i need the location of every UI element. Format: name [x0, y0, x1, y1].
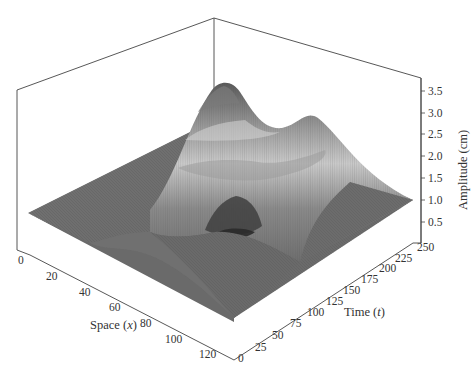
- x-tick-label: 100: [165, 333, 183, 345]
- z-tick-label: 2.0: [428, 150, 443, 162]
- t-tick-label: 125: [326, 295, 344, 307]
- z-tick-label: 3.0: [428, 107, 443, 119]
- x-tick-label: 40: [79, 286, 91, 298]
- t-tick-label: 25: [255, 341, 267, 353]
- t-axis-label: Time (t): [344, 305, 385, 319]
- x-tick-label: 20: [46, 270, 58, 282]
- z-tick-label: 1.0: [428, 194, 443, 206]
- x-tick-label: 0: [18, 254, 24, 266]
- x-axis-label: Space (x): [90, 318, 137, 332]
- t-tick-label: 50: [272, 329, 284, 341]
- z-tick-label: 0.5: [428, 216, 443, 228]
- t-tick-label: 75: [290, 317, 302, 329]
- z-axis-ticks: [421, 91, 425, 222]
- x-tick-label: 120: [199, 348, 217, 360]
- surface-plot: 3.5 3.0 2.5 2.0 1.5 1.0 0.5 Amplitude (c…: [0, 0, 472, 376]
- x-tick-label: 80: [140, 317, 152, 329]
- z-tick-label: 2.5: [428, 128, 443, 140]
- t-tick-label: 150: [343, 284, 361, 296]
- z-axis-label: Amplitude (cm): [456, 130, 470, 210]
- z-tick-label: 3.5: [428, 85, 443, 97]
- t-tick-label: 225: [395, 252, 413, 264]
- x-tick-label: 60: [109, 301, 121, 313]
- t-tick-label: 100: [307, 306, 325, 318]
- z-tick-label: 1.5: [428, 172, 443, 184]
- t-tick-label: 175: [361, 273, 379, 285]
- t-tick-label: 0: [238, 352, 244, 364]
- z-axis-tick-labels: 3.5 3.0 2.5 2.0 1.5 1.0 0.5: [428, 85, 443, 228]
- t-tick-label: 200: [379, 262, 397, 274]
- t-tick-label: 250: [417, 241, 435, 253]
